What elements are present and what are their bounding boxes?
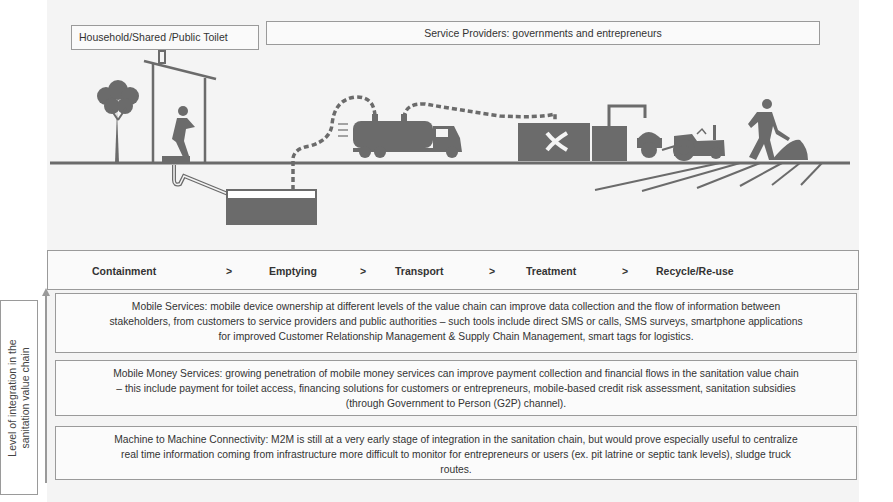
mobile-money-line: (through Government to Person (G2P) chan… (62, 396, 850, 411)
mobile-services-line: Mobile Services: mobile device ownership… (62, 299, 850, 314)
value-chain-stages: Containment > Emptying > Transport > Tre… (47, 250, 859, 290)
tree-icon (97, 80, 139, 163)
stage-separator-icon: > (622, 265, 628, 277)
mobile-money-line: – this include payment for toilet access… (62, 381, 850, 396)
squatting-person-icon (162, 106, 195, 162)
septic-tank-icon (227, 190, 316, 224)
tractor-trailer-icon (637, 125, 725, 161)
m2m-line: real time information coming from infras… (62, 447, 850, 462)
stage-separator-icon: > (226, 265, 232, 277)
digester-tank-icon (592, 106, 645, 161)
mobile-services-box: Mobile Services: mobile device ownership… (55, 293, 857, 353)
farmer-shoveling-icon (748, 99, 808, 160)
stage-treatment: Treatment (526, 265, 576, 277)
m2m-line: routes. (62, 462, 850, 477)
stage-containment: Containment (92, 265, 156, 277)
integration-level-label: Level of integration in the sanitation v… (0, 300, 38, 495)
mobile-services-line: for improved Customer Relationship Manag… (62, 329, 850, 344)
sanitation-chain-illustration (0, 0, 893, 250)
stage-separator-icon: > (489, 265, 495, 277)
mobile-services-line: stakeholders, from customers to service … (62, 314, 850, 329)
m2m-line: Machine to Machine Connectivity: M2M is … (62, 432, 850, 447)
integration-label-line2: sanitation value chain (19, 339, 32, 456)
m2m-connectivity-box: Machine to Machine Connectivity: M2M is … (55, 426, 857, 480)
mobile-money-line: Mobile Money Services: growing penetrati… (62, 366, 850, 381)
mobile-money-box: Mobile Money Services: growing penetrati… (55, 360, 857, 416)
stage-separator-icon: > (360, 265, 366, 277)
integration-label-line1: Level of integration in the (6, 339, 19, 456)
vacuum-truck-icon (338, 114, 462, 158)
arrow-up-icon (42, 287, 50, 487)
stage-recycle-reuse: Recycle/Re-use (656, 265, 734, 277)
field-furrows-icon (595, 163, 822, 191)
stage-transport: Transport (395, 265, 443, 277)
treatment-plant-icon (518, 123, 590, 161)
stage-emptying: Emptying (269, 265, 317, 277)
